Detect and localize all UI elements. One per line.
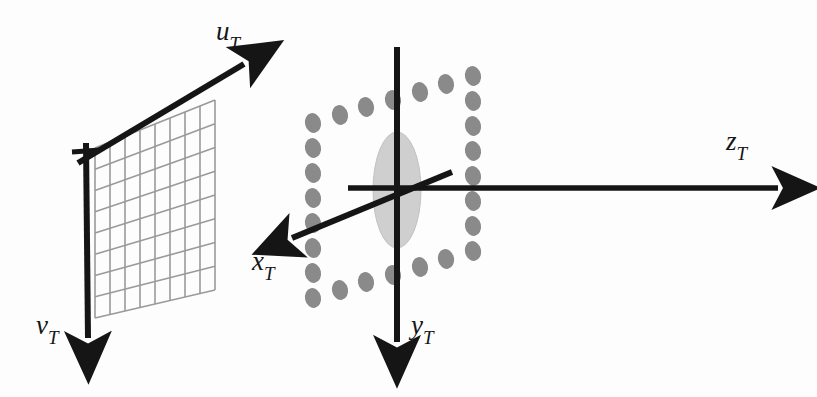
sensor-dot	[303, 137, 323, 160]
u-axis-arrow	[78, 64, 244, 163]
sensor-dot	[436, 73, 456, 96]
diagram-svg	[0, 0, 817, 397]
sensor-dot	[303, 162, 323, 185]
z-axis-label: zT	[726, 128, 747, 159]
sensor-dot	[463, 190, 483, 213]
z-axis-label-sub: T	[737, 143, 748, 164]
sensor-dot	[330, 279, 350, 302]
sensor-dot	[463, 165, 483, 188]
image-plane-grid	[95, 100, 215, 318]
u-axis-label-sub: T	[230, 33, 241, 54]
sensor-dot	[356, 96, 376, 119]
x-axis-label-sub: T	[264, 263, 275, 284]
x-axis-label: xT	[252, 248, 275, 279]
sensor-dot	[303, 237, 323, 260]
y-axis-label-sub: T	[423, 327, 434, 348]
sensor-dot	[356, 271, 376, 294]
sensor-dot	[410, 81, 430, 104]
sensor-dot	[463, 140, 483, 163]
sensor-dot	[330, 104, 350, 127]
y-axis-label: yT	[411, 312, 434, 343]
figure-canvas: uT vT xT yT zT	[0, 0, 817, 397]
sensor-dot	[410, 256, 430, 279]
sensor-dot	[436, 248, 456, 271]
sensor-dot	[303, 187, 323, 210]
v-axis-label: vT	[36, 312, 59, 343]
sensor-dot	[303, 262, 323, 285]
sensor-dot	[463, 90, 483, 113]
z-axis-label-base: z	[726, 126, 737, 156]
sensor-dot	[463, 115, 483, 138]
v-axis-arrow	[86, 143, 88, 338]
y-axis-label-base: y	[411, 310, 423, 340]
u-axis-label: uT	[216, 18, 240, 49]
sensor-dot	[463, 65, 483, 88]
v-axis-label-sub: T	[48, 327, 59, 348]
v-axis-label-base: v	[36, 310, 48, 340]
sensor-dot	[303, 112, 323, 135]
x-axis-label-base: x	[252, 246, 264, 276]
u-axis-label-base: u	[216, 16, 230, 46]
sensor-dot	[463, 240, 483, 263]
sensor-dot	[303, 287, 323, 310]
sensor-dot	[463, 215, 483, 238]
